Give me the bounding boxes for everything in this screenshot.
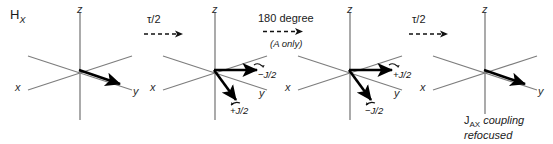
vector-minus-j-over-2 [349, 70, 371, 100]
panel-initial: z x y [5, 0, 145, 144]
vector-plus-j-over-2 [214, 70, 236, 100]
caption-j-subscript: AX [470, 120, 481, 129]
label-plus-j-over-2: +J/2 [230, 106, 248, 116]
caption-line2: refocused [464, 129, 512, 141]
rotation-curve-plus-head [397, 65, 400, 68]
axis-label-y: y [538, 86, 544, 97]
refocus-caption: JAX coupling refocused [464, 114, 524, 142]
label-minus-j-over-2: −J/2 [258, 70, 276, 80]
axis-label-z: z [77, 4, 83, 15]
rotation-curve-minus-head [262, 65, 265, 68]
magnetization-vector-y [484, 70, 525, 84]
axis-label-y: y [394, 88, 400, 99]
magnetization-vector-y [79, 70, 120, 84]
rotation-curve-plus [389, 64, 397, 66]
axis-label-x: x [420, 82, 426, 93]
axis-label-y: y [259, 88, 265, 99]
panel-after-180-pulse: z x y +J/2 −J/2 [275, 0, 415, 144]
label-plus-j-over-2: +J/2 [393, 70, 411, 80]
panel-initial-axes-svg [5, 0, 145, 144]
axis-label-z: z [212, 4, 218, 15]
caption-line1-rest: coupling [480, 114, 524, 126]
axis-label-z: z [347, 4, 353, 15]
nmr-spin-echo-figure: HX z x y τ/2 [0, 0, 553, 144]
axis-label-x: x [285, 82, 291, 93]
axis-label-x: x [150, 82, 156, 93]
axis-label-y: y [133, 86, 139, 97]
axis-label-x: x [15, 82, 21, 93]
rotation-curve-minus [254, 64, 262, 66]
axis-label-z: z [482, 4, 488, 15]
label-minus-j-over-2: −J/2 [365, 106, 383, 116]
